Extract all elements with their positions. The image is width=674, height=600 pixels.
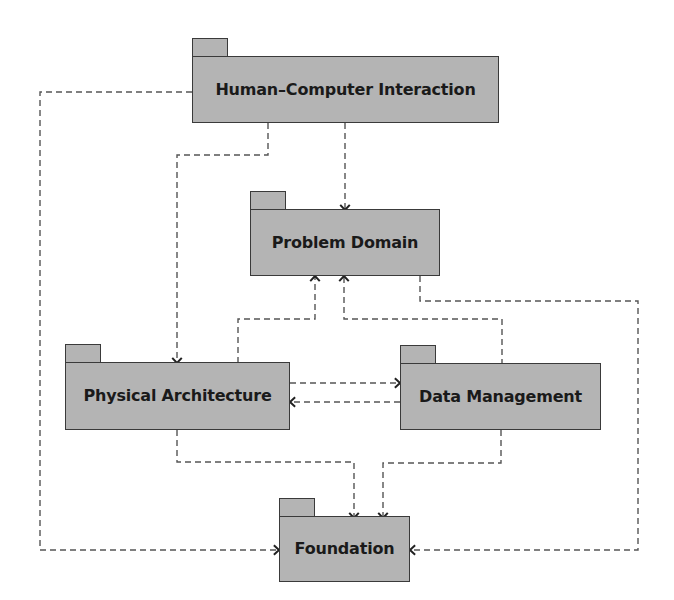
package-human-computer-interaction[interactable]: Human–Computer Interaction	[192, 38, 499, 123]
dependency-line	[40, 92, 279, 550]
package-body: Data Management	[400, 363, 601, 431]
package-diagram: Human–Computer Interaction Problem Domai…	[0, 0, 674, 600]
package-label: Problem Domain	[272, 233, 418, 252]
package-data-management[interactable]: Data Management	[400, 345, 601, 430]
package-body: Problem Domain	[250, 209, 440, 277]
package-tab	[250, 191, 286, 210]
package-tab	[65, 344, 101, 363]
package-physical-architecture[interactable]: Physical Architecture	[65, 344, 290, 430]
package-body: Human–Computer Interaction	[192, 56, 499, 124]
package-label: Data Management	[419, 387, 582, 406]
package-label: Foundation	[295, 539, 395, 558]
package-foundation[interactable]: Foundation	[279, 498, 410, 582]
package-problem-domain[interactable]: Problem Domain	[250, 191, 440, 276]
package-tab	[400, 345, 436, 364]
package-body: Foundation	[279, 516, 410, 583]
package-label: Human–Computer Interaction	[215, 80, 475, 99]
package-tab	[192, 38, 228, 57]
package-body: Physical Architecture	[65, 362, 290, 431]
package-tab	[279, 498, 315, 517]
package-label: Physical Architecture	[83, 386, 271, 405]
